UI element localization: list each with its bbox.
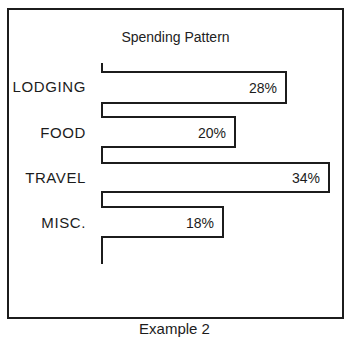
category-label-misc: MISC. bbox=[41, 214, 86, 231]
value-label-misc: 18% bbox=[186, 215, 214, 231]
category-label-lodging: LODGING bbox=[13, 78, 86, 95]
category-label-food: FOOD bbox=[40, 124, 86, 141]
chart-title: Spending Pattern bbox=[9, 29, 342, 45]
value-label-travel: 34% bbox=[292, 170, 320, 186]
chart-frame: Spending Pattern LODGING 28% FOOD 20% TR… bbox=[7, 8, 344, 319]
value-label-food: 20% bbox=[198, 125, 226, 141]
bar-travel: 34% bbox=[101, 162, 330, 193]
category-label-travel: TRAVEL bbox=[25, 169, 86, 186]
bar-misc: 18% bbox=[101, 206, 224, 238]
bar-lodging: 28% bbox=[101, 71, 287, 104]
bar-food: 20% bbox=[101, 116, 236, 148]
value-label-lodging: 28% bbox=[249, 80, 277, 96]
figure-caption: Example 2 bbox=[0, 320, 349, 337]
